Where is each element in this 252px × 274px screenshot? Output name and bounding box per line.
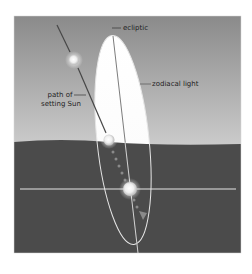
zodiacal-light-label: zodiacal light bbox=[152, 80, 198, 88]
sun-at-horizon bbox=[104, 135, 115, 146]
sun-high bbox=[69, 55, 79, 65]
sun-below-horizon bbox=[123, 182, 137, 196]
sun-path-label-line1: path of bbox=[46, 91, 74, 99]
sun-path-label-line2: setting Sun bbox=[40, 100, 82, 108]
diagram-canvas bbox=[0, 0, 252, 274]
zodiacal-light-diagram: ecliptic zodiacal light path of setting … bbox=[0, 0, 252, 274]
ecliptic-label: ecliptic bbox=[123, 24, 148, 32]
